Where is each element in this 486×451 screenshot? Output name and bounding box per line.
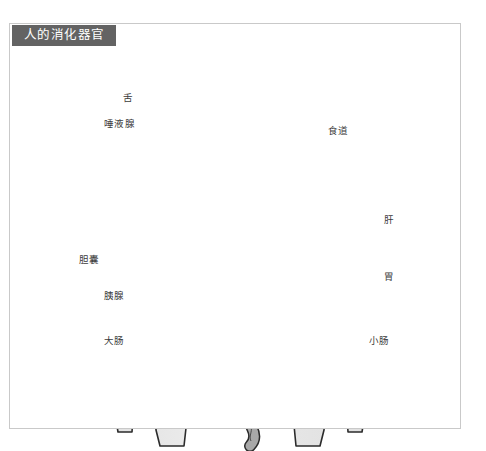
label-salivary-gland: 唾液腺	[104, 119, 135, 129]
page-title: 人的消化器官	[24, 29, 105, 42]
label-tongue: 舌	[123, 93, 133, 103]
label-esophagus: 食道	[328, 126, 349, 136]
label-pancreas: 胰腺	[104, 291, 125, 301]
figure-canvas: 人的消化器官 舌 唾液腺 食道 肝 胆囊 胃 胰腺 大肠 小肠	[0, 0, 486, 451]
label-small-intestine: 小肠	[369, 336, 390, 346]
label-large-intestine: 大肠	[104, 336, 125, 346]
label-stomach: 胃	[384, 272, 394, 282]
figure-frame	[9, 23, 461, 429]
label-gallbladder: 胆囊	[79, 255, 100, 265]
label-liver: 肝	[384, 215, 394, 225]
figure-title-plaque: 人的消化器官	[12, 25, 116, 46]
